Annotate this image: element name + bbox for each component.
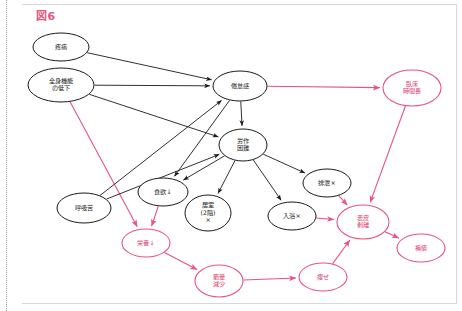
node-pain[interactable]: 疼痛 bbox=[33, 33, 89, 61]
edge-pain-to-fatigue bbox=[87, 53, 211, 80]
node-room[interactable]: 居室(2階)× bbox=[185, 195, 231, 231]
edge-emaciation-to-skin_tear bbox=[333, 240, 350, 264]
node-label-appetite: 食欲↓ bbox=[154, 188, 171, 196]
figure-label: 図6 bbox=[36, 11, 56, 22]
node-nutrition[interactable]: 栄養↓ bbox=[122, 229, 170, 257]
node-label-muscle_loss: 減少 bbox=[213, 280, 225, 288]
nodes-layer: 疼痛全身機能の低下倦怠感労作困難臥床時間長呼吸苦食欲↓居室(2階)×入浴×排泄×… bbox=[28, 33, 445, 297]
edge-bath-to-skin_tear bbox=[316, 218, 334, 220]
node-appetite[interactable]: 食欲↓ bbox=[138, 178, 188, 206]
node-emaciation[interactable]: 痩せ bbox=[299, 263, 347, 291]
node-bath[interactable]: 入浴× bbox=[268, 202, 316, 230]
node-label-pain: 疼痛 bbox=[55, 43, 67, 51]
node-label-fatigue: 倦怠感 bbox=[231, 82, 249, 90]
edge-muscle_loss-to-emaciation bbox=[243, 278, 295, 280]
node-label-bedrest: 時間長 bbox=[403, 87, 421, 95]
edge-decline-to-fatigue bbox=[95, 85, 210, 86]
edge-exertion-to-toilet bbox=[263, 154, 305, 173]
node-label-room: × bbox=[205, 216, 210, 223]
node-label-decline: の低下 bbox=[52, 84, 70, 92]
edge-exertion-to-appetite bbox=[183, 156, 224, 180]
node-fatigue[interactable]: 倦怠感 bbox=[213, 71, 267, 101]
edge-toilet-to-skin_tear bbox=[339, 196, 348, 205]
node-label-skin_tear: 剥離 bbox=[357, 221, 369, 229]
edge-fatigue-to-exertion bbox=[241, 101, 242, 125]
node-skin_tear[interactable]: 表皮剥離 bbox=[337, 205, 389, 239]
diagram-graph: 疼痛全身機能の低下倦怠感労作困難臥床時間長呼吸苦食欲↓居室(2階)×入浴×排泄×… bbox=[0, 0, 462, 311]
node-toilet[interactable]: 排泄× bbox=[303, 169, 351, 197]
node-exertion[interactable]: 労作困難 bbox=[219, 129, 267, 161]
node-dyspnea[interactable]: 呼吸苦 bbox=[57, 193, 111, 223]
node-label-nutrition: 栄養↓ bbox=[137, 239, 154, 247]
node-label-dyspnea: 呼吸苦 bbox=[75, 204, 93, 212]
node-label-bath: 入浴× bbox=[283, 212, 300, 220]
edge-decline-to-exertion bbox=[89, 94, 218, 137]
edge-fatigue-to-bedrest bbox=[267, 86, 379, 87]
edge-skin_tear-to-ulcer bbox=[385, 232, 399, 238]
edge-nutrition-to-muscle_loss bbox=[164, 253, 197, 270]
edge-bedrest-to-skin_tear bbox=[370, 106, 405, 202]
node-label-emaciation: 痩せ bbox=[317, 273, 329, 281]
node-label-exertion: 困難 bbox=[237, 144, 249, 152]
node-label-ulcer: 褥瘡 bbox=[415, 244, 428, 252]
node-ulcer[interactable]: 褥瘡 bbox=[397, 234, 445, 262]
figure-canvas: 図6 疼痛全身機能の低下倦怠感労作困難臥床時間長呼吸苦食欲↓居室(2階)×入浴×… bbox=[0, 0, 462, 311]
node-bedrest[interactable]: 臥床時間長 bbox=[383, 70, 441, 106]
edge-appetite-to-nutrition bbox=[152, 206, 159, 226]
node-label-toilet: 排泄× bbox=[318, 179, 335, 187]
node-muscle_loss[interactable]: 筋量減少 bbox=[195, 265, 243, 297]
edge-exertion-to-bath bbox=[253, 160, 281, 200]
node-decline[interactable]: 全身機能の低下 bbox=[28, 68, 94, 102]
edge-exertion-to-room bbox=[218, 161, 235, 194]
